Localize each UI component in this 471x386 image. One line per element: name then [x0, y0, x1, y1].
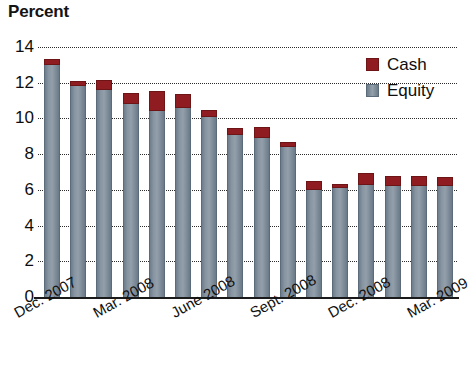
bar-segment-equity [280, 147, 296, 297]
bar[interactable] [358, 173, 374, 297]
bar-segment-equity [123, 104, 139, 297]
bar-segment-equity [332, 188, 348, 297]
legend-item[interactable]: Equity [366, 82, 458, 99]
x-axis-line [34, 297, 459, 299]
bar[interactable] [201, 110, 217, 297]
bar[interactable] [227, 128, 243, 297]
bar-segment-cash [358, 173, 374, 185]
legend-label: Cash [387, 56, 427, 73]
legend-label: Equity [387, 82, 434, 99]
bar-segment-cash [411, 176, 427, 186]
y-axis-tick-label: 14 [0, 38, 34, 55]
y-axis-tick-label: 12 [0, 74, 34, 91]
bar-segment-equity [44, 65, 60, 297]
bar[interactable] [175, 94, 191, 297]
bar[interactable] [123, 93, 139, 297]
legend-swatch-equity [366, 84, 379, 97]
legend-item[interactable]: Cash [366, 56, 458, 73]
bar-segment-equity [70, 86, 86, 297]
bar-segment-cash [96, 80, 112, 90]
bar-segment-cash [385, 176, 401, 186]
legend-swatch-cash [366, 58, 379, 71]
bar-segment-cash [149, 91, 165, 112]
bar[interactable] [70, 81, 86, 297]
bar-segment-equity [149, 111, 165, 297]
bar-segment-cash [306, 181, 322, 190]
bar-segment-equity [96, 90, 112, 297]
bar-segment-cash [254, 127, 270, 138]
bar-segment-equity [254, 138, 270, 297]
gridline [38, 47, 457, 48]
bar[interactable] [411, 176, 427, 297]
bar-segment-cash [437, 177, 453, 186]
bar-segment-cash [123, 93, 139, 105]
bar-segment-equity [201, 117, 217, 297]
page-title: Percent [8, 2, 69, 22]
y-axis-tick-label: 8 [0, 145, 34, 162]
y-axis-tick-label: 6 [0, 181, 34, 198]
y-axis-tick-label: 2 [0, 252, 34, 269]
bar[interactable] [332, 184, 348, 297]
bar[interactable] [280, 142, 296, 297]
bar[interactable] [254, 127, 270, 297]
legend: CashEquity [366, 56, 458, 108]
bar[interactable] [149, 91, 165, 297]
bar-segment-equity [411, 186, 427, 297]
y-axis-tick-label: 10 [0, 109, 34, 126]
x-axis-labels: Dec. 2007Mar. 2008June 2008Sept. 2008Dec… [0, 300, 459, 386]
bar[interactable] [96, 80, 112, 297]
bar[interactable] [44, 59, 60, 297]
bar-segment-cash [175, 94, 191, 107]
y-axis-tick-label: 4 [0, 217, 34, 234]
y-axis-labels: 14121086420 [0, 47, 34, 297]
bar-segment-equity [175, 108, 191, 297]
